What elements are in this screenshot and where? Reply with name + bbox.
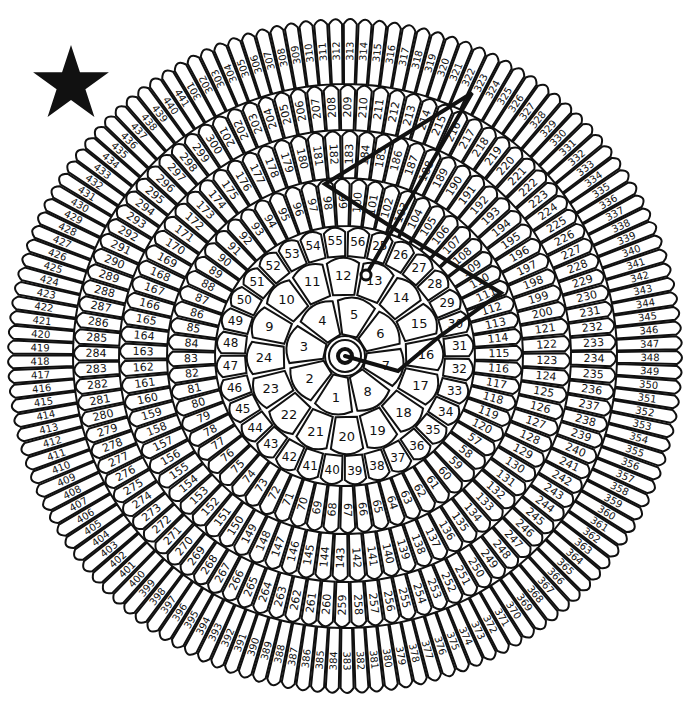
dot-number[interactable]: 84 <box>184 336 199 350</box>
dot-number[interactable]: 4 <box>318 313 326 328</box>
dot-number[interactable]: 346 <box>639 324 659 337</box>
dot-number[interactable]: 142 <box>349 547 363 569</box>
dot-number[interactable]: 181 <box>310 145 326 168</box>
dot-number[interactable]: 15 <box>411 316 428 331</box>
dot-number[interactable]: 32 <box>452 362 467 376</box>
dot-number[interactable]: 417 <box>31 369 51 381</box>
dot-number[interactable]: 347 <box>640 338 660 350</box>
dot-number[interactable]: 45 <box>235 402 250 416</box>
dot-number[interactable]: 182 <box>326 143 340 165</box>
dot-number[interactable]: 384 <box>327 651 339 671</box>
dot-number[interactable]: 85 <box>185 321 201 336</box>
dot-number[interactable]: 183 <box>343 143 356 164</box>
dot-number[interactable]: 19 <box>369 423 386 438</box>
dot-number[interactable]: 12 <box>335 268 352 283</box>
dot-number[interactable]: 383 <box>341 651 352 670</box>
dot-number[interactable]: 66 <box>355 501 370 516</box>
dot-number[interactable]: 381 <box>368 650 381 670</box>
dot-number[interactable]: 28 <box>427 277 442 291</box>
dot-number[interactable]: 42 <box>282 450 297 464</box>
dot-number[interactable]: 2 <box>305 371 313 386</box>
dot-number[interactable]: 144 <box>317 546 332 568</box>
dot-number[interactable]: 29 <box>439 296 454 310</box>
dot-number[interactable]: 5 <box>350 307 358 322</box>
dot-number[interactable]: 54 <box>305 239 320 253</box>
dot-number[interactable]: 232 <box>581 320 603 335</box>
puzzle-board[interactable]: 3013023033043053063073083093103113123133… <box>0 0 686 715</box>
dot-number[interactable]: 314 <box>357 42 369 62</box>
dot-number[interactable]: 385 <box>314 650 327 670</box>
dot-number[interactable]: 40 <box>325 463 340 477</box>
dot-number[interactable]: 38 <box>369 459 384 473</box>
dot-number[interactable]: 34 <box>438 405 453 419</box>
dot-number[interactable]: 164 <box>133 328 155 343</box>
dot-number[interactable]: 33 <box>447 384 462 398</box>
dot-number[interactable]: 257 <box>366 592 381 614</box>
dot-number[interactable]: 24 <box>256 350 273 365</box>
dot-number[interactable]: 116 <box>487 361 509 376</box>
dot-number[interactable]: 10 <box>278 292 295 307</box>
dot-number[interactable]: 69 <box>310 499 325 515</box>
dot-number[interactable]: 315 <box>371 43 384 63</box>
dot-number[interactable]: 207 <box>309 97 324 119</box>
dot-number[interactable]: 9 <box>265 319 273 334</box>
dot-number[interactable]: 14 <box>393 290 410 305</box>
dot-number[interactable]: 43 <box>263 437 278 451</box>
dot-number[interactable]: 17 <box>412 378 429 393</box>
dot-number[interactable]: 41 <box>303 459 318 473</box>
dot-number[interactable]: 18 <box>395 405 412 420</box>
dot-number[interactable]: 49 <box>228 314 243 328</box>
dot-number[interactable]: 50 <box>237 293 252 307</box>
dot-number[interactable]: 234 <box>583 352 604 365</box>
dot-number[interactable]: 83 <box>184 352 198 365</box>
dot-number[interactable]: 68 <box>325 502 339 517</box>
dot-number[interactable]: 35 <box>425 423 440 437</box>
dot-number[interactable]: 22 <box>281 407 298 422</box>
dot-number[interactable]: 311 <box>317 42 329 62</box>
dot-number[interactable]: 3 <box>300 339 308 354</box>
dot-number[interactable]: 312 <box>331 41 343 60</box>
dot-number[interactable]: 419 <box>30 342 49 354</box>
current-dot-marker[interactable] <box>361 270 371 280</box>
dot-number[interactable]: 114 <box>487 331 509 346</box>
dot-number[interactable]: 123 <box>536 354 557 367</box>
dot-number[interactable]: 313 <box>344 41 355 60</box>
dot-number[interactable]: 39 <box>347 464 362 478</box>
dot-number[interactable]: 282 <box>86 377 108 392</box>
dot-number[interactable]: 259 <box>336 594 349 615</box>
dot-number[interactable]: 47 <box>223 359 238 373</box>
dot-number[interactable]: 210 <box>356 97 371 119</box>
dot-number[interactable]: 416 <box>32 382 52 395</box>
dot-number[interactable]: 21 <box>307 424 324 439</box>
dot-number[interactable]: 53 <box>284 247 299 261</box>
dot-number[interactable]: 55 <box>328 234 343 248</box>
dot-number[interactable]: 48 <box>223 336 238 350</box>
dot-number[interactable]: 162 <box>132 360 154 374</box>
dot-number[interactable]: 163 <box>132 345 153 358</box>
dot-number[interactable]: 1 <box>332 390 340 405</box>
dot-number[interactable]: 382 <box>355 651 367 671</box>
dot-number[interactable]: 37 <box>390 451 405 465</box>
dot-number[interactable]: 6 <box>376 326 384 341</box>
dot-number[interactable]: 27 <box>411 261 426 275</box>
dot-number[interactable]: 26 <box>393 248 408 262</box>
dot-number[interactable]: 11 <box>304 274 321 289</box>
dot-number[interactable]: 31 <box>452 339 467 353</box>
dot-number[interactable]: 20 <box>338 429 355 444</box>
dot-number[interactable]: 52 <box>266 259 281 273</box>
dot-number[interactable]: 235 <box>582 367 604 382</box>
dot-number[interactable]: 348 <box>640 352 659 363</box>
dot-number[interactable]: 82 <box>184 366 199 381</box>
dot-number[interactable]: 56 <box>350 235 365 249</box>
dot-number[interactable]: 260 <box>320 593 335 615</box>
dot-number[interactable]: 310 <box>303 43 316 63</box>
dot-number[interactable]: 209 <box>341 96 354 117</box>
dot-number[interactable]: 23 <box>263 381 280 396</box>
dot-number[interactable]: 285 <box>86 331 108 346</box>
dot-number[interactable]: 36 <box>409 439 424 453</box>
dot-number[interactable]: 258 <box>351 594 365 616</box>
dot-number[interactable]: 349 <box>640 365 660 377</box>
dot-number[interactable]: 283 <box>86 362 108 376</box>
dot-number[interactable]: 44 <box>248 421 263 435</box>
dot-number[interactable]: 143 <box>334 547 347 568</box>
